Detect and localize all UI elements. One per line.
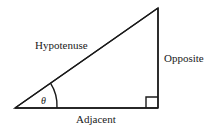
hypotenuse-label: Hypotenuse [35, 39, 88, 51]
right-triangle-diagram: Hypotenuse Opposite Adjacent θ [0, 0, 213, 134]
theta-label: θ [41, 95, 46, 106]
hypotenuse-side [15, 8, 158, 108]
right-angle-marker [146, 97, 158, 108]
opposite-label: Opposite [164, 52, 204, 64]
angle-arc [51, 83, 58, 108]
adjacent-label: Adjacent [76, 113, 116, 125]
